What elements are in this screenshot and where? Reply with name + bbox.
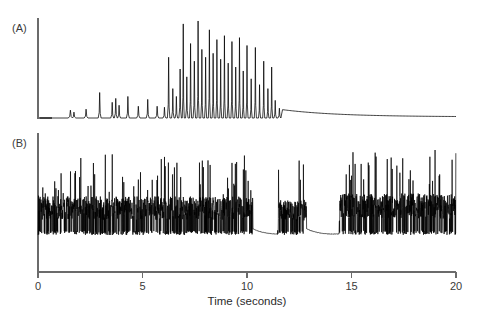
x-axis-title: Time (seconds) bbox=[208, 295, 287, 307]
panel-a: (A) bbox=[12, 18, 456, 118]
panel-a-trace bbox=[40, 21, 456, 118]
panel-a-axis bbox=[38, 18, 52, 118]
x-tick-label: 10 bbox=[241, 280, 253, 292]
x-tick-label: 20 bbox=[450, 280, 462, 292]
panel-a-label: (A) bbox=[12, 22, 27, 34]
panel-b: (B) bbox=[12, 133, 456, 272]
panel-b-trace bbox=[38, 150, 456, 235]
figure-root: (A) (B) 05101520 Time (seconds) bbox=[0, 0, 480, 320]
x-axis-ticks: 05101520 bbox=[35, 272, 462, 292]
x-tick-label: 15 bbox=[345, 280, 357, 292]
x-tick-label: 0 bbox=[35, 280, 41, 292]
x-axis: 05101520 Time (seconds) bbox=[35, 272, 462, 307]
panel-b-label: (B) bbox=[12, 137, 27, 149]
figure-canvas: (A) (B) 05101520 Time (seconds) bbox=[0, 0, 480, 320]
x-tick-label: 5 bbox=[139, 280, 145, 292]
